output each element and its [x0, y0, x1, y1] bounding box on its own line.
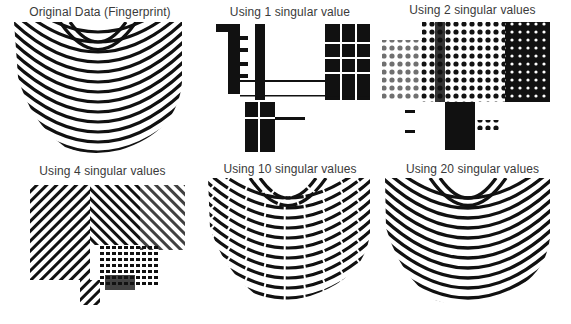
panel-title: Using 20 singular values [380, 162, 565, 176]
fingerprint-image-rank-10 [200, 178, 375, 308]
panel-rank-4: Using 4 singular values [10, 160, 195, 324]
panel-rank-20: Using 20 singular values [380, 160, 565, 324]
panel-title: Using 4 singular values [10, 164, 195, 178]
panel-rank-2: Using 2 singular values [380, 0, 565, 160]
panel-title: Using 10 singular values [200, 162, 380, 176]
fingerprint-image-rank-1 [200, 22, 375, 154]
fingerprint-image-original [10, 22, 185, 154]
panel-title: Using 2 singular values [380, 3, 565, 17]
panel-rank-10: Using 10 singular values [200, 160, 380, 324]
fingerprint-image-rank-4 [10, 180, 190, 310]
fingerprint-image-rank-2 [380, 20, 555, 152]
panel-original: Original Data (Fingerprint) [10, 0, 190, 160]
panel-title: Original Data (Fingerprint) [10, 5, 190, 19]
panel-rank-1: Using 1 singular value [200, 0, 380, 160]
fingerprint-image-rank-20 [380, 178, 555, 308]
panel-title: Using 1 singular value [200, 5, 380, 19]
